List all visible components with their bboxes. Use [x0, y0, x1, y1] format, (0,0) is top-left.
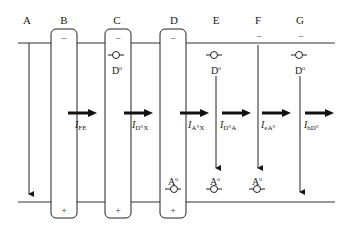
donor-label-e: Do — [211, 63, 221, 76]
current-arrow-ea — [262, 109, 291, 117]
acceptor-label-d: Ao — [168, 174, 178, 187]
level-e-donor-dot — [211, 52, 218, 59]
minus-sign-b: − — [61, 34, 67, 44]
acceptor-label-e: Ao — [210, 174, 220, 187]
column-label-f: F — [255, 15, 261, 26]
column-label-a: A — [23, 15, 31, 26]
current-label-ea: IeA° — [261, 120, 275, 133]
current-label-fe: IFE — [75, 120, 87, 133]
column-label-d: D — [170, 15, 178, 26]
current-label-hd: IhD° — [304, 120, 319, 133]
level-g-donor-dot — [296, 52, 303, 59]
minus-sign-g: − — [298, 32, 304, 42]
acceptor-label-f: Ao — [252, 174, 262, 187]
column-label-g: G — [296, 15, 304, 26]
current-arrow-hd — [305, 109, 334, 117]
current-label-da: ID°A — [220, 120, 236, 133]
minus-sign-d: − — [170, 34, 176, 44]
box-b — [51, 29, 77, 218]
column-label-e: E — [213, 15, 220, 26]
column-label-b: B — [60, 15, 67, 26]
column-label-c: C — [113, 15, 120, 26]
donor-label-g: Do — [295, 63, 305, 76]
donor-label-c: Do — [112, 63, 122, 76]
plus-sign-b: + — [61, 206, 67, 216]
minus-sign-c: − — [115, 34, 121, 44]
minus-sign-f: − — [256, 32, 262, 42]
plus-sign-c: + — [115, 206, 121, 216]
current-arrow-da — [222, 109, 251, 117]
plus-sign-d: + — [170, 206, 176, 216]
current-label-ax: IA°X — [188, 120, 204, 133]
current-label-dx: ID°X — [132, 120, 148, 133]
level-c-donor-dot — [113, 52, 120, 59]
